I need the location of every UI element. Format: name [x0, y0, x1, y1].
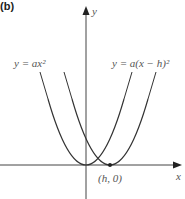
curve-shifted-parabola: [72, 99, 148, 165]
x-axis-label: x: [175, 170, 181, 182]
y-axis-arrow-icon: [83, 6, 90, 15]
base-parabola-label: y = ax²: [13, 57, 46, 69]
x-axis-arrow-icon: [173, 162, 182, 169]
vertex-point: [108, 163, 112, 167]
shifted-parabola-label: y = a(x − h)²: [111, 57, 170, 70]
parabola-diagram: y x y = ax² y = a(x − h)² (h, 0): [0, 0, 185, 199]
vertex-label: (h, 0): [98, 172, 122, 185]
y-axis-label: y: [91, 5, 97, 17]
